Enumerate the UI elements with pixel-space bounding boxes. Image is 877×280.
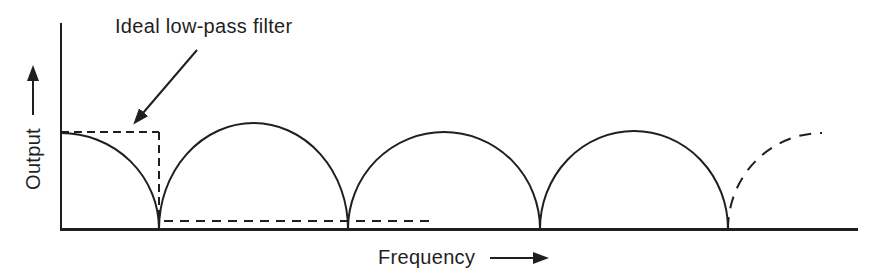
comb-filter-response-curve xyxy=(61,123,728,229)
comb-filter-dashed-lobe xyxy=(728,133,822,229)
annotation-arrow xyxy=(143,50,197,113)
filter-response-plot xyxy=(0,0,877,280)
x-axis-label: Frequency xyxy=(378,246,475,268)
ideal-lowpass-annotation: Ideal low-pass filter xyxy=(115,15,292,37)
comb-filter-figure: Ideal low-pass filter Output Frequency xyxy=(0,0,877,280)
y-axis-label: Output xyxy=(22,103,44,215)
